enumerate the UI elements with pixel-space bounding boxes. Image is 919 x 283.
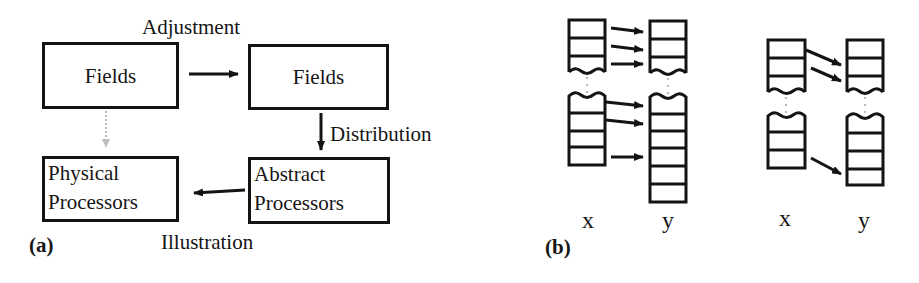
physical-processors-label-line1: Physical <box>48 161 119 185</box>
illustration-label: Illustration <box>161 230 253 254</box>
panel-a-label: (a) <box>29 233 54 257</box>
group1-y-array <box>650 21 686 202</box>
panel-b-label: (b) <box>545 235 571 259</box>
abstract-processors-label-line1: Abstract <box>254 162 325 186</box>
physical-processors-label-line2: Processors <box>48 190 138 214</box>
fields-source-box: Fields <box>42 42 179 109</box>
fields-adjusted-label: Fields <box>251 65 386 89</box>
group2-mapping-arrows <box>806 50 841 174</box>
abstract-processors-box: Abstract Processors <box>248 157 390 224</box>
group1-mapping-arrows <box>606 28 643 157</box>
group2-x-ellipsis <box>785 97 787 113</box>
illustration-arrow <box>194 190 245 193</box>
group2-y-ellipsis <box>864 97 866 113</box>
adjustment-label: Adjustment <box>142 15 240 39</box>
abstract-processors-label-line2: Processors <box>254 191 344 215</box>
distribution-label: Distribution <box>330 122 432 146</box>
group2-y-label: y <box>858 207 870 233</box>
fields-adjusted-box: Fields <box>248 44 389 110</box>
group1-y-ellipsis <box>667 78 669 94</box>
physical-processors-box: Physical Processors <box>42 156 179 222</box>
group2-x-label: x <box>779 205 791 231</box>
group1-x-label: x <box>582 207 594 233</box>
figure: Fields Fields Physical Processors Abstra… <box>0 0 919 283</box>
group2-x-array <box>768 40 805 168</box>
group1-y-label: y <box>662 207 674 233</box>
fields-source-label: Fields <box>45 64 176 88</box>
group1-x-ellipsis <box>586 77 588 93</box>
